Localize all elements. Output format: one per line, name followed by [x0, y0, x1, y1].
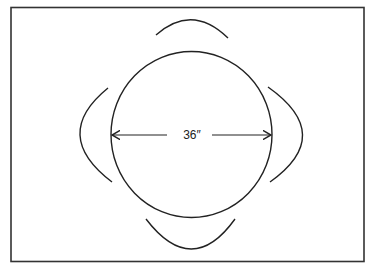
chair-top [156, 20, 228, 38]
chair-right [268, 87, 303, 182]
chair-left [80, 88, 112, 182]
diameter-label: 36″ [172, 127, 212, 143]
chair-bottom [146, 219, 235, 249]
